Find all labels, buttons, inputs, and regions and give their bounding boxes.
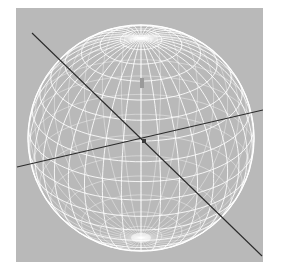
gizmo-arrow[interactable] (140, 78, 144, 88)
3d-viewport[interactable] (16, 8, 263, 262)
wireframe-sphere-scene (16, 8, 263, 262)
axis-origin-marker[interactable] (142, 139, 146, 143)
horizontal-axis[interactable] (17, 110, 263, 167)
south-pole-highlight (131, 233, 151, 243)
